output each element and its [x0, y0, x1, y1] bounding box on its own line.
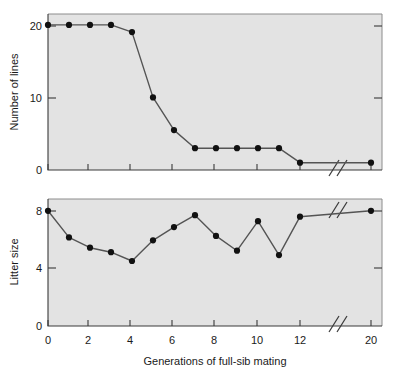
- data-point: [150, 94, 156, 100]
- bottom-y-axis-title: Litter size: [8, 238, 20, 285]
- two-panel-line-chart: 20 10 0 Number of lines: [0, 0, 398, 375]
- data-point: [297, 214, 303, 220]
- xtick-label-20: 20: [365, 334, 377, 346]
- data-point: [45, 22, 51, 28]
- data-point: [129, 258, 135, 264]
- x-tick-labels: 0 2 4 6 8 10 12 20: [45, 334, 377, 346]
- top-ytick-label-20: 20: [30, 20, 42, 32]
- data-point: [108, 249, 114, 255]
- data-point: [171, 127, 177, 133]
- panel-bottom: 8 4 0 Litter size 0 2 4 6 8 10 12 20 Gen…: [8, 199, 382, 367]
- data-point: [368, 208, 374, 214]
- data-point: [66, 234, 72, 240]
- data-point: [129, 29, 135, 35]
- xtick-label-8: 8: [211, 334, 217, 346]
- xtick-label-6: 6: [169, 334, 175, 346]
- data-point: [368, 160, 374, 166]
- data-point: [45, 208, 51, 214]
- top-y-axis-title: Number of lines: [8, 53, 20, 131]
- data-point: [297, 160, 303, 166]
- xtick-label-2: 2: [85, 334, 91, 346]
- data-point: [234, 145, 240, 151]
- data-point: [87, 245, 93, 251]
- xtick-label-10: 10: [251, 334, 263, 346]
- bottom-ytick-label-0: 0: [36, 320, 42, 332]
- data-point: [87, 22, 93, 28]
- data-point: [171, 224, 177, 230]
- data-point: [150, 237, 156, 243]
- x-axis-title: Generations of full-sib mating: [143, 355, 286, 367]
- data-point: [213, 145, 219, 151]
- bottom-plot-background: [48, 199, 382, 326]
- data-point: [108, 22, 114, 28]
- top-ytick-label-10: 10: [30, 92, 42, 104]
- top-ytick-label-0: 0: [36, 164, 42, 176]
- xtick-label-0: 0: [45, 334, 51, 346]
- data-point: [213, 233, 219, 239]
- bottom-ytick-label-8: 8: [36, 205, 42, 217]
- figure-container: 20 10 0 Number of lines: [0, 0, 398, 375]
- panel-top: 20 10 0 Number of lines: [8, 14, 382, 176]
- data-point: [255, 218, 261, 224]
- xtick-label-12: 12: [294, 334, 306, 346]
- bottom-ytick-label-4: 4: [36, 262, 42, 274]
- data-point: [255, 145, 261, 151]
- data-point: [192, 145, 198, 151]
- data-point: [276, 252, 282, 258]
- data-point: [234, 248, 240, 254]
- xtick-label-4: 4: [127, 334, 133, 346]
- data-point: [276, 145, 282, 151]
- data-point: [192, 212, 198, 218]
- data-point: [66, 22, 72, 28]
